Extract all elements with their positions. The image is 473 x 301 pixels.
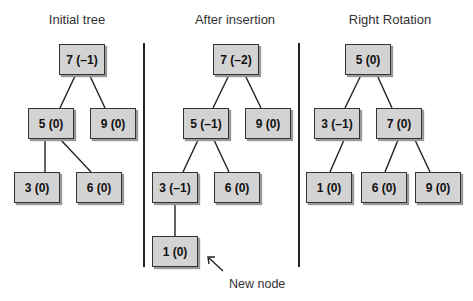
- tree-node: 7 (–1): [59, 44, 105, 75]
- tree-node: 5 (0): [345, 44, 391, 75]
- tree-node-new: 1 (0): [152, 236, 198, 267]
- tree-node: 6 (0): [76, 172, 122, 203]
- tree-node: 3 (–1): [152, 172, 198, 203]
- tree-node: 1 (0): [306, 172, 352, 203]
- tree-node: 9 (0): [245, 108, 291, 139]
- tree-node: 5 (0): [28, 108, 74, 139]
- tree-node: 9 (0): [415, 172, 461, 203]
- tree-node: 3 (–1): [314, 108, 360, 139]
- tree-node: 3 (0): [14, 172, 60, 203]
- tree-node: 7 (–2): [213, 44, 259, 75]
- new-node-label: New node: [229, 277, 285, 291]
- tree-node: 9 (0): [90, 108, 136, 139]
- tree-node: 6 (0): [214, 172, 260, 203]
- tree-node: 6 (0): [361, 172, 407, 203]
- tree-node: 5 (–1): [183, 108, 229, 139]
- tree-node: 7 (0): [376, 108, 422, 139]
